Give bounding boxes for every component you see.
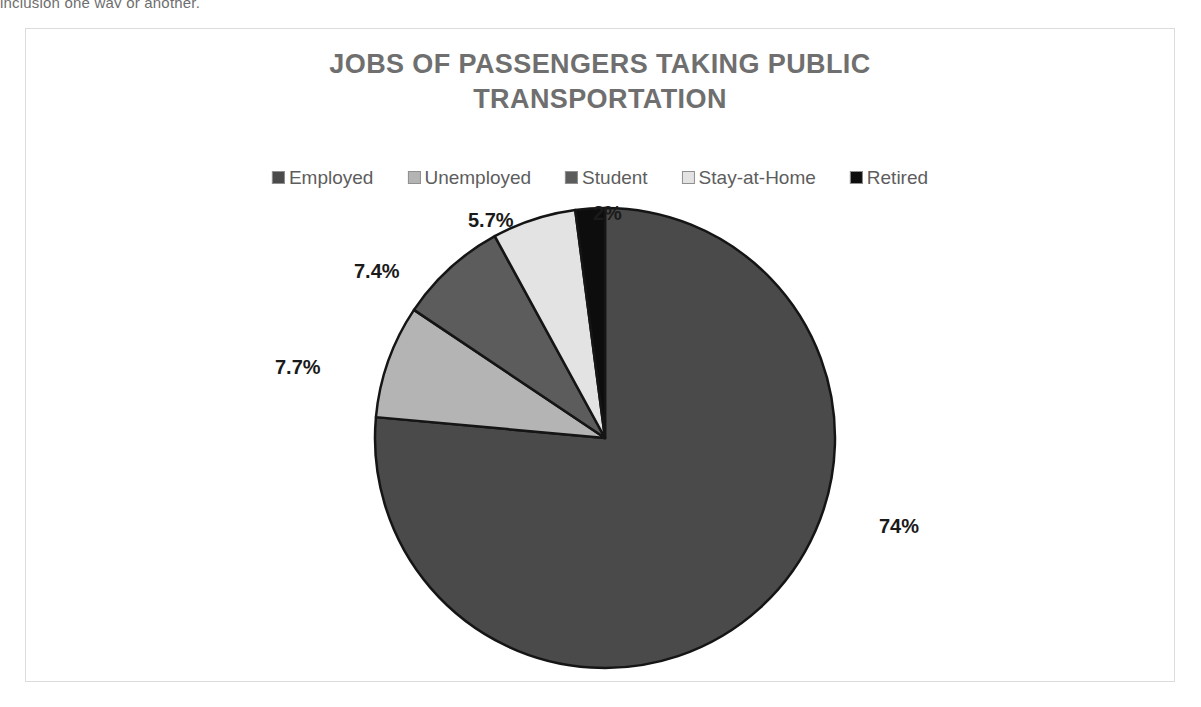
- legend-swatch-unemployed: [407, 171, 420, 184]
- legend-label-student: Student: [582, 168, 648, 187]
- legend-swatch-stay-at-home: [682, 171, 695, 184]
- pie-slice-unemployed[interactable]: [376, 310, 605, 438]
- pie-slice-employed[interactable]: [375, 208, 835, 668]
- clipped-page-text: inclusion one way or another.: [0, 0, 420, 8]
- legend-item-unemployed[interactable]: Unemployed: [407, 168, 531, 187]
- data-label-unemployed: 7.7%: [275, 356, 321, 379]
- legend-swatch-retired: [850, 171, 863, 184]
- data-label-stay-at-home: 5.7%: [468, 209, 514, 232]
- legend-label-retired: Retired: [867, 168, 928, 187]
- pie-slice-stay-at-home[interactable]: [495, 210, 605, 438]
- legend-swatch-employed: [272, 171, 285, 184]
- pie-slice-retired[interactable]: [575, 208, 605, 438]
- pie-chart: [364, 197, 846, 679]
- chart-title: JOBS OF PASSENGERS TAKING PUBLIC TRANSPO…: [250, 47, 950, 116]
- chart-legend: Employed Unemployed Student Stay-at-Home…: [272, 168, 928, 187]
- legend-label-stay-at-home: Stay-at-Home: [699, 168, 816, 187]
- legend-label-employed: Employed: [289, 168, 374, 187]
- data-label-student: 7.4%: [354, 260, 400, 283]
- pie-chart-area: 74% 7.7% 7.4% 5.7% 2%: [26, 29, 1174, 681]
- legend-label-unemployed: Unemployed: [424, 168, 531, 187]
- legend-item-stay-at-home[interactable]: Stay-at-Home: [682, 168, 816, 187]
- data-label-retired: 2%: [593, 202, 622, 225]
- data-label-employed: 74%: [879, 515, 919, 538]
- pie-slice-student[interactable]: [414, 236, 605, 438]
- legend-swatch-student: [565, 171, 578, 184]
- legend-item-student[interactable]: Student: [565, 168, 648, 187]
- legend-item-employed[interactable]: Employed: [272, 168, 374, 187]
- legend-item-retired[interactable]: Retired: [850, 168, 928, 187]
- chart-frame: JOBS OF PASSENGERS TAKING PUBLIC TRANSPO…: [25, 28, 1175, 682]
